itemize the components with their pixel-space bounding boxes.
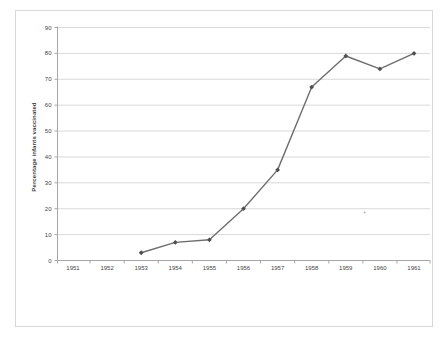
- x-tick-label: 1954: [169, 265, 183, 271]
- y-tick-label: 50: [45, 128, 52, 134]
- y-tick-label: 80: [45, 50, 52, 56]
- x-tick-label: 1959: [339, 265, 353, 271]
- x-tick-label: 1957: [271, 265, 285, 271]
- stray-dot: [364, 212, 366, 214]
- vaccination-line-chart: 0102030405060708090195119521953195419551…: [0, 0, 447, 347]
- x-tick-label: 1953: [135, 265, 149, 271]
- y-tick-label: 20: [45, 206, 52, 212]
- x-tick-label: 1961: [407, 265, 421, 271]
- y-tick-label: 60: [45, 102, 52, 108]
- y-axis-title: Percentage infants vaccinated: [29, 87, 39, 207]
- chart-border: [16, 11, 433, 327]
- x-tick-label: 1960: [373, 265, 387, 271]
- x-tick-label: 1955: [203, 265, 217, 271]
- y-tick-label: 70: [45, 76, 52, 82]
- y-tick-label: 10: [45, 232, 52, 238]
- document-page: 0102030405060708090195119521953195419551…: [0, 0, 447, 347]
- y-tick-label: 40: [45, 154, 52, 160]
- x-tick-label: 1952: [100, 265, 114, 271]
- x-tick-label: 1958: [305, 265, 319, 271]
- y-tick-label: 90: [45, 25, 52, 31]
- x-tick-label: 1956: [237, 265, 251, 271]
- y-tick-label: 30: [45, 180, 52, 186]
- x-tick-label: 1951: [66, 265, 80, 271]
